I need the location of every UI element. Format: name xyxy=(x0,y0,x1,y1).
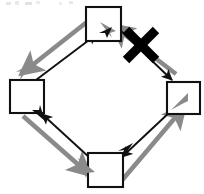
cross-out-x-mark xyxy=(126,30,156,60)
edge-bottom-to-right-gray xyxy=(118,106,185,185)
node-bottom[interactable] xyxy=(88,153,123,187)
diagram-canvas: Four-node cyclic diagram with one crosse… xyxy=(0,0,204,194)
arrowhead-gray-into-left xyxy=(16,63,32,80)
node-left[interactable] xyxy=(10,80,44,113)
edge-left-to-bottom-gray xyxy=(23,116,90,175)
scan-artifacts xyxy=(6,1,73,5)
diagram-svg xyxy=(0,0,204,194)
